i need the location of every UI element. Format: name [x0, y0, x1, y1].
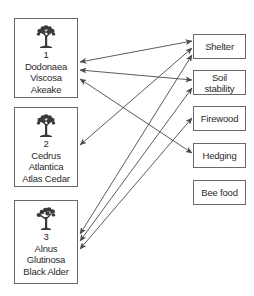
tree-card-3: 3 Alnus Glutinosa Black Alder — [14, 200, 78, 284]
benefit-label: Shelter — [205, 41, 234, 52]
tree-common-name: Akeake — [31, 84, 62, 96]
benefit-label: Firewood — [201, 113, 238, 124]
tree-icon — [35, 207, 57, 231]
benefit-firewood: Firewood — [193, 106, 246, 131]
arrow-tree3-soil-stability — [80, 88, 192, 241]
benefit-label: Hedging — [203, 150, 237, 161]
tree-number: 2 — [43, 138, 48, 150]
tree-genus: Cedrus — [31, 150, 60, 162]
tree-species: Viscosa — [30, 72, 62, 84]
tree-number: 3 — [43, 231, 48, 243]
benefit-label-line1: Soil — [205, 72, 235, 83]
tree-genus: Alnus — [35, 243, 58, 255]
arrow-tree1-soil-stability — [80, 70, 192, 80]
benefit-hedging: Hedging — [193, 143, 246, 168]
tree-icon — [35, 25, 57, 49]
benefit-shelter: Shelter — [193, 34, 246, 59]
tree-card-1: 1 Dodonaea Viscosa Akeake — [14, 18, 78, 98]
tree-icon — [35, 114, 57, 138]
arrow-tree1-hedging — [80, 79, 192, 153]
benefit-label: Bee food — [201, 187, 237, 198]
arrow-tree1-shelter — [80, 41, 192, 62]
tree-benefit-diagram: 1 Dodonaea Viscosa Akeake 2 C — [0, 0, 254, 296]
tree-number: 1 — [43, 49, 48, 61]
benefit-soil-stability: Soil stability — [193, 70, 246, 95]
tree-genus: Dodonaea — [25, 61, 67, 73]
tree-species: Atlantica — [29, 161, 64, 173]
tree-common-name: Black Alder — [23, 266, 68, 278]
tree-species: Glutinosa — [27, 254, 65, 266]
arrow-tree3-shelter — [80, 55, 192, 234]
tree-card-2: 2 Cedrus Atlantica Atlas Cedar — [14, 107, 78, 187]
arrow-tree2-shelter — [80, 48, 192, 145]
tree-common-name: Atlas Cedar — [22, 173, 69, 185]
benefit-bee-food: Bee food — [193, 180, 246, 205]
arrow-tree3-firewood — [80, 118, 192, 249]
benefit-label-line2: stability — [205, 83, 235, 94]
